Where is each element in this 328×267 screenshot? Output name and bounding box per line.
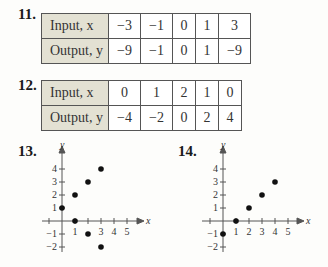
x-arrow-icon (297, 218, 304, 224)
y-axis-label: y (59, 140, 65, 150)
table-cell: 0 (109, 81, 141, 106)
table-cell: 1 (196, 39, 219, 64)
table-cell: −9 (109, 39, 141, 64)
table-cell: 1 (196, 14, 219, 39)
svg-text:−1: −1 (207, 228, 218, 239)
svg-text:−1: −1 (46, 228, 57, 239)
table-cell: −1 (141, 39, 173, 64)
table-cell: 1 (141, 81, 173, 106)
table-cell: −4 (109, 106, 141, 131)
x-arrow-icon (137, 218, 144, 224)
scatter-graph-14: y x 1 2 3 4 5 4 3 2 1 −1 −2 (160, 140, 328, 267)
input-output-table-11: Input, x −3 −1 0 1 3 Output, y −9 −1 0 1… (41, 13, 251, 64)
x-axis-label: x (305, 215, 311, 226)
table-cell: −1 (141, 14, 173, 39)
svg-text:4: 4 (52, 163, 57, 174)
table-cell: 0 (219, 81, 242, 106)
svg-text:4: 4 (273, 226, 278, 237)
table-cell: 1 (196, 81, 219, 106)
table-cell: 4 (219, 106, 242, 131)
table-row-input: Input, x 0 1 2 1 0 (42, 81, 242, 106)
x-axis-label: x (145, 215, 151, 226)
table-cell: 2 (196, 106, 219, 131)
table-cell: 0 (173, 39, 196, 64)
svg-text:1: 1 (73, 226, 78, 237)
row-label-output: Output, y (42, 39, 109, 64)
svg-text:1: 1 (52, 202, 57, 213)
table-cell: 2 (173, 81, 196, 106)
x-tick-labels: 1 2 3 4 5 (234, 226, 291, 237)
scatter-graph-13: y x 1 3 4 5 4 3 2 1 −1 −2 (0, 140, 165, 267)
svg-text:2: 2 (213, 189, 218, 200)
problem-number-11: 11. (18, 6, 36, 23)
svg-text:1: 1 (213, 202, 218, 213)
input-output-table-12: Input, x 0 1 2 1 0 Output, y −4 −2 0 2 4 (41, 80, 242, 131)
svg-text:−2: −2 (207, 241, 218, 252)
svg-text:4: 4 (213, 163, 218, 174)
svg-text:5: 5 (286, 226, 291, 237)
svg-text:3: 3 (99, 226, 104, 237)
svg-text:5: 5 (125, 226, 130, 237)
svg-text:3: 3 (260, 226, 265, 237)
table-cell: −9 (219, 39, 251, 64)
svg-text:2: 2 (247, 226, 252, 237)
svg-text:4: 4 (112, 226, 117, 237)
problem-number-12: 12. (18, 77, 37, 94)
y-tick-labels: 4 3 2 1 −1 −2 (207, 163, 218, 252)
table-cell: −2 (141, 106, 173, 131)
table-row-input: Input, x −3 −1 0 1 3 (42, 14, 251, 39)
x-tick-labels: 1 3 4 5 (73, 226, 130, 237)
svg-text:3: 3 (52, 176, 57, 187)
table-cell: 3 (219, 14, 251, 39)
table-cell: 0 (173, 14, 196, 39)
table-row-output: Output, y −4 −2 0 2 4 (42, 106, 242, 131)
y-axis-label: y (220, 140, 226, 150)
table-cell: −3 (109, 14, 141, 39)
table-cell: 0 (173, 106, 196, 131)
row-label-input: Input, x (42, 81, 109, 106)
row-label-input: Input, x (42, 14, 109, 39)
svg-text:−2: −2 (46, 241, 57, 252)
data-points (59, 166, 104, 250)
svg-text:3: 3 (213, 176, 218, 187)
y-tick-labels: 4 3 2 1 −1 −2 (46, 163, 57, 252)
svg-text:1: 1 (234, 226, 239, 237)
row-label-output: Output, y (42, 106, 109, 131)
svg-text:2: 2 (52, 189, 57, 200)
table-row-output: Output, y −9 −1 0 1 −9 (42, 39, 251, 64)
